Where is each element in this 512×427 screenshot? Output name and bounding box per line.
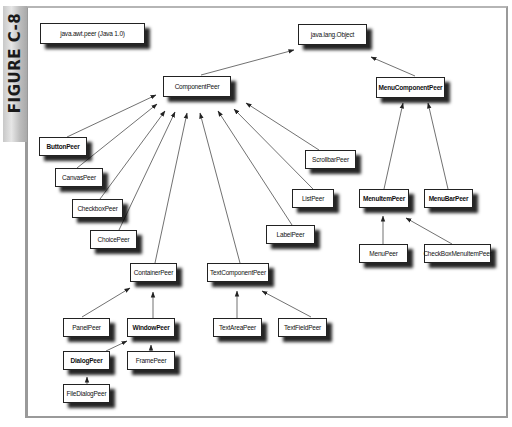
- node-menu-item-peer: MenuItemPeer: [359, 189, 409, 208]
- node-text-field-peer: TextFieldPeer: [278, 318, 327, 337]
- node-frame-peer: FramePeer: [127, 351, 175, 370]
- node-scrollbar-peer: ScrollbarPeer: [305, 150, 356, 169]
- node-choice-peer: ChoicePeer: [90, 230, 137, 249]
- node-text-area-peer: TextAreaPeer: [213, 318, 262, 337]
- node-list-peer: ListPeer: [292, 189, 334, 208]
- sidebar-rule: [25, 142, 27, 418]
- node-window-peer: WindowPeer: [127, 318, 175, 337]
- node-menu-peer: MenuPeer: [359, 244, 408, 263]
- node-panel-peer: PanelPeer: [63, 318, 110, 337]
- node-button-peer: ButtonPeer: [39, 137, 87, 156]
- node-file-dialog-peer: FileDialogPeer: [63, 384, 110, 403]
- figure-label: FIGURE C-8: [3, 8, 27, 118]
- node-canvas-peer: CanvasPeer: [55, 168, 103, 187]
- node-checkbox-menu-item-peer: CheckBoxMenuItemPeer: [424, 244, 491, 263]
- node-text-component-peer: TextComponentPeer: [207, 263, 269, 282]
- node-label-peer: LabelPeer: [266, 225, 315, 244]
- node-dialog-peer: DialogPeer: [63, 351, 110, 370]
- node-container-peer: ContainerPeer: [130, 263, 177, 282]
- caption-box: java.awt.peer (Java 1.0): [40, 23, 145, 44]
- figure-label-text: FIGURE C-8: [6, 13, 24, 113]
- node-checkbox-peer: CheckboxPeer: [72, 199, 123, 218]
- node-menu-bar-peer: MenuBarPeer: [424, 189, 473, 208]
- node-java-lang-object: java.lang.Object: [298, 24, 367, 45]
- node-menu-component-peer: MenuComponentPeer: [376, 77, 445, 98]
- node-component-peer: ComponentPeer: [163, 76, 231, 97]
